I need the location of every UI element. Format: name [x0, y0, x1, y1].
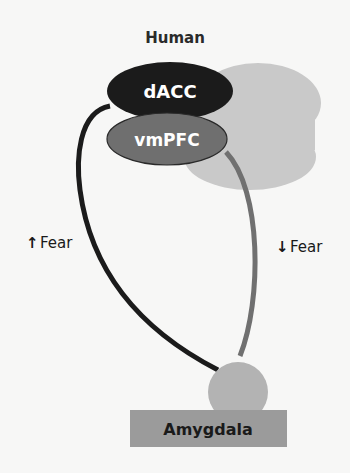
up-arrow-icon: ↑: [26, 234, 39, 252]
increase-fear-label: Fear: [40, 234, 73, 252]
vmpfc-label: vmPFC: [134, 130, 199, 150]
dacc-label: dACC: [143, 81, 196, 102]
fear-circuit-diagram: Human dACC vmPFC ↑ Fear ↓ Fear Amygdala: [0, 0, 350, 473]
dacc-region: dACC: [107, 62, 233, 120]
amygdala-region: Amygdala: [130, 410, 287, 447]
down-arrow-icon: ↓: [276, 238, 289, 256]
decrease-fear-annotation: ↓ Fear: [276, 238, 323, 256]
decrease-fear-label: Fear: [290, 238, 323, 256]
increase-fear-annotation: ↑ Fear: [26, 234, 73, 252]
diagram-title: Human: [145, 29, 205, 47]
amygdala-label: Amygdala: [163, 420, 252, 439]
vmpfc-region: vmPFC: [107, 113, 227, 165]
